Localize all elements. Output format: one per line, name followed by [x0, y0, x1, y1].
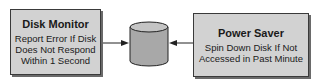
power-saver-line-2: Accessed in Past Minute [199, 53, 303, 64]
arrow-right-to-disk [169, 40, 193, 46]
disk-monitor-line-2: Does Not Respond [15, 44, 95, 55]
disk-cylinder-icon [130, 22, 168, 66]
disk-monitor-title: Disk Monitor [22, 18, 89, 31]
arrow-left-to-disk [101, 40, 129, 46]
power-saver-title: Power Saver [218, 27, 284, 40]
disk-monitor-line-1: Report Error If Disk [15, 33, 96, 44]
disk-monitor-line-3: Within 1 Second [21, 55, 90, 66]
power-saver-line-1: Spin Down Disk If Not [205, 42, 297, 53]
power-saver-box: Power Saver Spin Down Disk If Not Access… [193, 13, 309, 77]
disk-monitor-box: Disk Monitor Report Error If Disk Does N… [10, 9, 101, 75]
